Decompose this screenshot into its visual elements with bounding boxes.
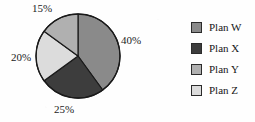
legend-swatch-plan-z (191, 85, 202, 96)
chart-legend: Plan W Plan X Plan Y Plan Z (191, 17, 255, 101)
legend-swatch-plan-x (191, 43, 202, 54)
legend-item-plan-x: Plan X (191, 38, 255, 58)
pie-data-label-25: 25% (54, 104, 74, 115)
legend-swatch-plan-y (191, 64, 202, 75)
legend-item-plan-z: Plan Z (191, 80, 255, 100)
legend-label-plan-w: Plan W (209, 22, 242, 33)
pie-data-label-20: 20% (11, 52, 31, 63)
legend-swatch-plan-w (191, 22, 202, 33)
legend-label-plan-z: Plan Z (209, 85, 238, 96)
legend-label-plan-x: Plan X (209, 43, 239, 54)
pie-data-label-40: 40% (121, 35, 141, 46)
legend-item-plan-w: Plan W (191, 17, 255, 37)
legend-item-plan-y: Plan Y (191, 59, 255, 79)
legend-label-plan-y: Plan Y (209, 64, 239, 75)
pie-chart-figure: 40% 25% 20% 15% Plan W Plan X Plan Y Pla… (0, 0, 255, 122)
pie-data-label-15: 15% (32, 3, 52, 14)
